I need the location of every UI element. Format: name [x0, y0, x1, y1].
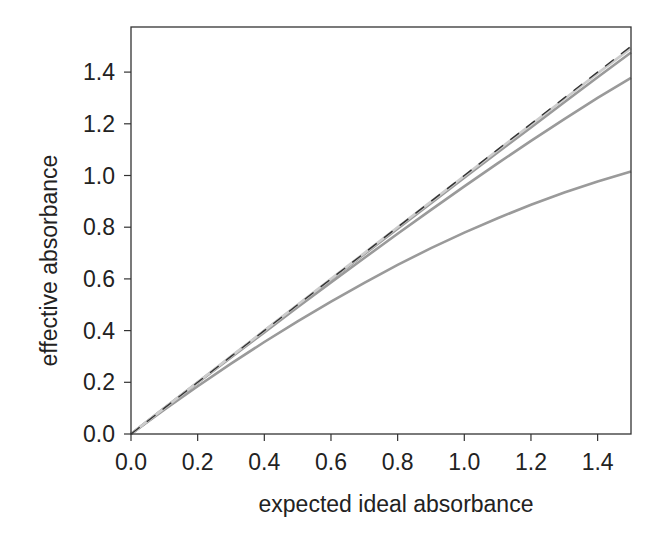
series-line-1: [131, 48, 631, 434]
x-tick-label: 1.4: [582, 449, 614, 475]
x-axis-label: expected ideal absorbance: [259, 491, 534, 517]
x-tick-label: 0.0: [115, 449, 147, 475]
y-tick-label: 0.6: [83, 266, 115, 292]
y-axis-label: effective absorbance: [36, 155, 62, 367]
x-tick-label: 1.0: [448, 449, 480, 475]
series-line-4: [131, 171, 631, 434]
y-tick-label: 1.0: [83, 163, 115, 189]
x-tick-label: 0.8: [382, 449, 414, 475]
line-chart: 0.00.20.40.60.81.01.21.40.00.20.40.60.81…: [0, 0, 659, 547]
y-tick-label: 0.8: [83, 214, 115, 240]
plot-frame: [131, 27, 631, 434]
y-tick-label: 0.0: [83, 421, 115, 447]
chart-container: 0.00.20.40.60.81.01.21.40.00.20.40.60.81…: [0, 0, 659, 547]
x-tick-label: 0.6: [315, 449, 347, 475]
y-tick-label: 1.4: [83, 59, 115, 85]
y-tick-label: 0.2: [83, 369, 115, 395]
x-tick-label: 0.4: [248, 449, 280, 475]
y-tick-label: 1.2: [83, 111, 115, 137]
x-tick-label: 0.2: [182, 449, 214, 475]
x-tick-label: 1.2: [515, 449, 547, 475]
y-tick-label: 0.4: [83, 318, 115, 344]
